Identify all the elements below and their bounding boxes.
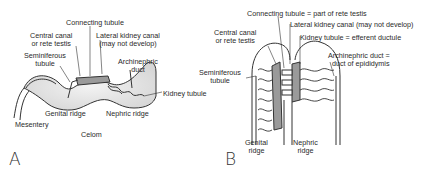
label-b-archinephric-duct: Archinephric duct = duct of epididymis: [328, 52, 390, 68]
label-b-connecting-tubule: Connecting tubule = part of rete testis: [247, 10, 367, 18]
panel-label-a: A: [9, 149, 21, 169]
label-b-genital-ridge: Genital ridge: [245, 139, 268, 155]
label-b-lateral-kidney-canal: Lateral kidney canal (may not develop): [290, 21, 413, 29]
label-a-kidney-tubule: Kidney tubule: [163, 90, 207, 98]
label-b-kidney-tubule: Kidney tubule = efferent ductule: [300, 34, 401, 42]
label-a-celom: Celom: [81, 131, 102, 139]
label-b-seminiferous-tubule: Seminiferous tubule: [199, 69, 241, 85]
label-a-connecting-tubule: Connecting tubule: [66, 19, 124, 27]
label-a-archinephric-duct: Archinephric duct: [118, 58, 158, 74]
label-a-lateral-kidney-canal: Lateral kidney canal (may not develop): [96, 32, 160, 48]
label-a-seminiferous-tubule: Seminiferous tubule: [24, 52, 66, 68]
label-a-central-canal: Central canal or rete testis: [30, 32, 72, 48]
label-b-central-canal: Central canal or rete testis: [214, 29, 256, 45]
label-b-nephric-ridge: Nephric ridge: [293, 139, 318, 155]
panel-label-b: B: [225, 149, 236, 169]
label-a-genital-ridge: Genital ridge: [45, 110, 86, 118]
label-a-mesentery: Mesentery: [15, 121, 49, 129]
label-a-nephric-ridge: Nephric ridge: [106, 110, 149, 118]
